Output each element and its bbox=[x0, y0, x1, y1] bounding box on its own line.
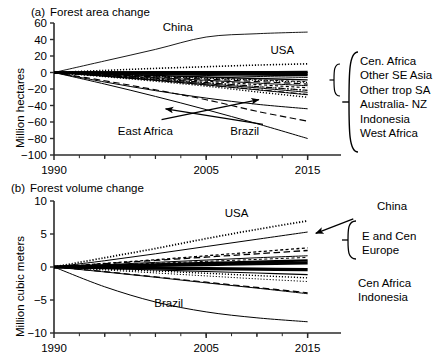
panel-b-label-cen-africa-indonesia: Cen Africa Indonesia bbox=[358, 276, 411, 305]
x-tick-label: 2005 bbox=[193, 164, 219, 176]
y-tick-label: −5 bbox=[34, 294, 47, 306]
y-tick-label: −40 bbox=[27, 100, 47, 112]
y-tick-label: 60 bbox=[34, 17, 47, 29]
y-tick-label: −100 bbox=[21, 149, 47, 161]
x-tick-label: 2015 bbox=[295, 164, 321, 176]
legend-item-indonesia: Indonesia bbox=[360, 112, 432, 126]
legend-item-cen-africa: Cen. Africa bbox=[360, 54, 432, 68]
series-annotation-label: East Africa bbox=[118, 125, 174, 137]
panel-b-plot: 1050−5−10199020052015USABrazil bbox=[0, 179, 442, 359]
x-tick-label: 2005 bbox=[193, 342, 219, 354]
y-tick-label: 10 bbox=[34, 195, 47, 207]
panel-forest-volume-change: (b)Forest volume change Million cubic me… bbox=[0, 179, 442, 359]
series-annotation-label: Brazil bbox=[230, 125, 259, 137]
panel-b-label-e-cen-europe: E and Cen Europe bbox=[362, 229, 416, 258]
y-tick-label: 40 bbox=[34, 34, 47, 46]
series-line bbox=[54, 267, 308, 322]
y-tick-label: −60 bbox=[27, 116, 47, 128]
legend-item-china: China bbox=[377, 199, 407, 213]
y-tick-label: −20 bbox=[27, 83, 47, 95]
legend-item-cen-africa-b: Cen Africa bbox=[358, 276, 411, 290]
series-annotation-label: USA bbox=[225, 207, 249, 219]
series-annotation-label: USA bbox=[270, 44, 294, 56]
y-tick-label: 5 bbox=[41, 228, 47, 240]
legend-item-other-se-asia: Other SE Asia bbox=[360, 68, 432, 82]
y-tick-label: −80 bbox=[27, 133, 47, 145]
panel-b-label-china: China bbox=[377, 199, 407, 213]
series-line bbox=[54, 221, 308, 267]
series-annotation-label: China bbox=[163, 21, 194, 33]
panel-a-right-legend: Cen. Africa Other SE Asia Other trop SA … bbox=[360, 54, 432, 140]
legend-item-europe: Europe bbox=[362, 243, 416, 257]
y-tick-label: 20 bbox=[34, 50, 47, 62]
y-tick-label: 0 bbox=[41, 261, 47, 273]
legend-item-indonesia-b: Indonesia bbox=[358, 290, 411, 304]
figure-container: (a)Forest area change Million hectares 6… bbox=[0, 0, 442, 359]
x-tick-label: 1990 bbox=[41, 164, 67, 176]
legend-item-west-africa: West Africa bbox=[360, 126, 432, 140]
y-tick-label: 0 bbox=[41, 67, 47, 79]
panel-forest-area-change: (a)Forest area change Million hectares 6… bbox=[0, 0, 442, 180]
legend-brace bbox=[349, 52, 358, 152]
legend-brace bbox=[348, 221, 356, 259]
annotation-arrow bbox=[166, 109, 263, 125]
series-line bbox=[54, 72, 308, 73]
legend-brace bbox=[334, 64, 340, 96]
x-tick-label: 1990 bbox=[41, 342, 67, 354]
x-tick-label: 2015 bbox=[295, 342, 321, 354]
legend-item-e-and-cen: E and Cen bbox=[362, 229, 416, 243]
y-tick-label: −10 bbox=[27, 327, 47, 339]
series-annotation-label: Brazil bbox=[154, 297, 183, 309]
legend-item-australia-nz: Australia- NZ bbox=[360, 97, 432, 111]
legend-item-other-trop-sa: Other trop SA bbox=[360, 83, 432, 97]
